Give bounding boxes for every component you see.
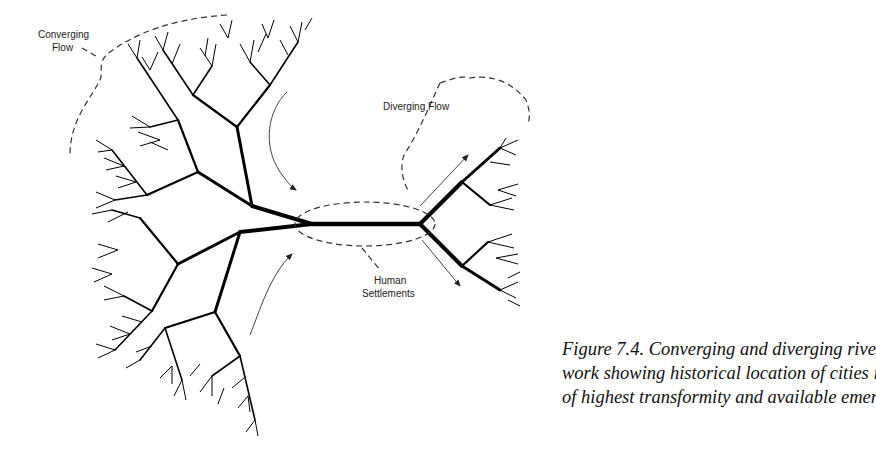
diverging-flow-boundary <box>402 77 529 190</box>
diverging-flow-label: Diverging Flow <box>383 101 450 112</box>
caption-line-2: work showing historical location of citi… <box>562 361 862 385</box>
human-settlements-label-1: Human <box>374 275 406 286</box>
caption-line-1: Figure 7.4. Converging and diverging riv… <box>562 337 862 361</box>
converging-flow-label-1: Converging <box>38 29 89 40</box>
figure-caption: Figure 7.4. Converging and diverging riv… <box>562 337 862 409</box>
human-settlements-label-2: Settlements <box>362 288 415 299</box>
diverging-network <box>420 138 520 306</box>
human-settlements-boundary <box>295 202 435 270</box>
converging-flow-label-2: Flow <box>52 42 74 53</box>
converging-flow-boundary <box>70 15 227 155</box>
caption-line-3: of highest transformity and available em… <box>562 385 862 409</box>
converging-network <box>92 18 420 436</box>
